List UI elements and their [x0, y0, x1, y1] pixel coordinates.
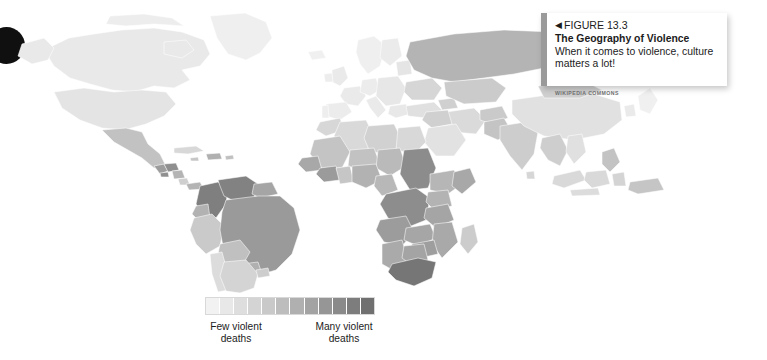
figure-caption-card: ◀FIGURE 13.3 The Geography of Violence W… [541, 13, 727, 86]
region-alaska [18, 38, 54, 64]
legend-label-high: Many violent deaths [301, 321, 387, 346]
region-philippines [602, 148, 620, 172]
legend-label-low: Few violent deaths [193, 321, 279, 346]
region-poland-balkans [376, 76, 406, 106]
region-indonesia-sulawesi [612, 172, 626, 186]
left-triangle-icon: ◀ [555, 20, 562, 30]
region-somalia [452, 168, 476, 194]
legend-swatch-11 [361, 298, 374, 314]
region-ukraine [404, 78, 442, 100]
legend-label-low-line1: Few violent [193, 321, 279, 333]
legend-swatch-4 [262, 298, 276, 314]
legend-swatch-5 [276, 298, 290, 314]
legend-label-low-line2: deaths [193, 333, 279, 345]
region-ireland [324, 73, 333, 82]
region-madagascar [460, 224, 478, 254]
region-iceland [308, 50, 326, 60]
region-canada [44, 28, 210, 92]
caption-body: ◀FIGURE 13.3 The Geography of Violence W… [555, 18, 719, 71]
region-papua-new-guinea [628, 178, 664, 194]
figure-caption-text: The Geography of Violence When it comes … [555, 33, 719, 71]
legend-swatch-1 [220, 298, 234, 314]
region-jamaica [190, 157, 199, 161]
caption-accent-bar [541, 13, 547, 86]
legend-swatch-10 [347, 298, 361, 314]
region-puerto-rico [225, 155, 234, 160]
region-north-south-korea [624, 104, 636, 117]
region-portugal [322, 105, 329, 118]
figure-number-label: FIGURE 13.3 [564, 19, 628, 31]
region-canada-arctic-isles [106, 14, 184, 26]
region-ghana-togo [336, 166, 354, 184]
region-guyana-suriname [252, 182, 278, 198]
region-nicaragua [172, 170, 185, 179]
region-uruguay [256, 268, 270, 278]
legend-swatch-8 [319, 298, 333, 314]
legend-label-high-line2: deaths [301, 333, 387, 345]
figure-number-line: ◀FIGURE 13.3 [555, 18, 719, 32]
region-hispaniola [206, 153, 222, 160]
region-greenland [210, 13, 272, 60]
region-indonesia-sumatra [552, 170, 586, 188]
region-senegal-guinea [298, 156, 322, 172]
region-japan [638, 88, 658, 114]
region-indonesia-java [570, 188, 600, 196]
figure-credit-line: WIKIPEDIA COMMONS [555, 90, 619, 96]
legend-label-high-line1: Many violent [301, 321, 387, 333]
region-indonesia-borneo [584, 170, 610, 188]
region-mexico [102, 128, 166, 168]
region-vietnam [566, 134, 586, 164]
legend-swatch-7 [305, 298, 319, 314]
legend-swatch-0 [206, 298, 220, 314]
legend-gradient-bar [205, 297, 375, 315]
region-sri-lanka [526, 171, 535, 179]
region-spain [326, 102, 352, 120]
region-cuba [174, 146, 204, 154]
legend-swatch-3 [248, 298, 262, 314]
figure-caption-headline: The Geography of Violence [555, 33, 689, 44]
legend-swatch-6 [290, 298, 304, 314]
region-united-states [54, 88, 176, 130]
region-united-kingdom [332, 66, 348, 86]
legend-swatch-9 [333, 298, 347, 314]
legend-swatch-2 [234, 298, 248, 314]
region-peru [190, 214, 224, 254]
map-legend: Few violent deaths Many violent deaths [205, 297, 375, 315]
region-el-salvador [160, 172, 169, 177]
figure-caption-body: When it comes to violence, culture matte… [555, 46, 713, 70]
